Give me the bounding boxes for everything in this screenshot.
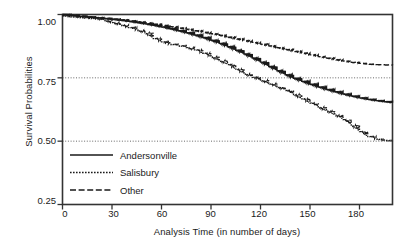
curve-andersonville [63,15,393,103]
gridlines [63,15,393,205]
legend: AndersonvilleSalisburyOther [70,150,177,196]
curve-salisbury [63,16,393,141]
legend-label-andersonville: Andersonville [120,150,177,161]
axis-ticks [58,15,360,210]
plot-area: AndersonvilleSalisburyOther [0,0,405,246]
curve-other [63,15,393,66]
plot-frame [63,15,393,205]
survival-curve-figure: Survival Probabilities Analysis Time (in… [0,0,405,246]
legend-label-salisbury: Salisbury [120,167,159,178]
legend-label-other: Other [120,185,144,196]
